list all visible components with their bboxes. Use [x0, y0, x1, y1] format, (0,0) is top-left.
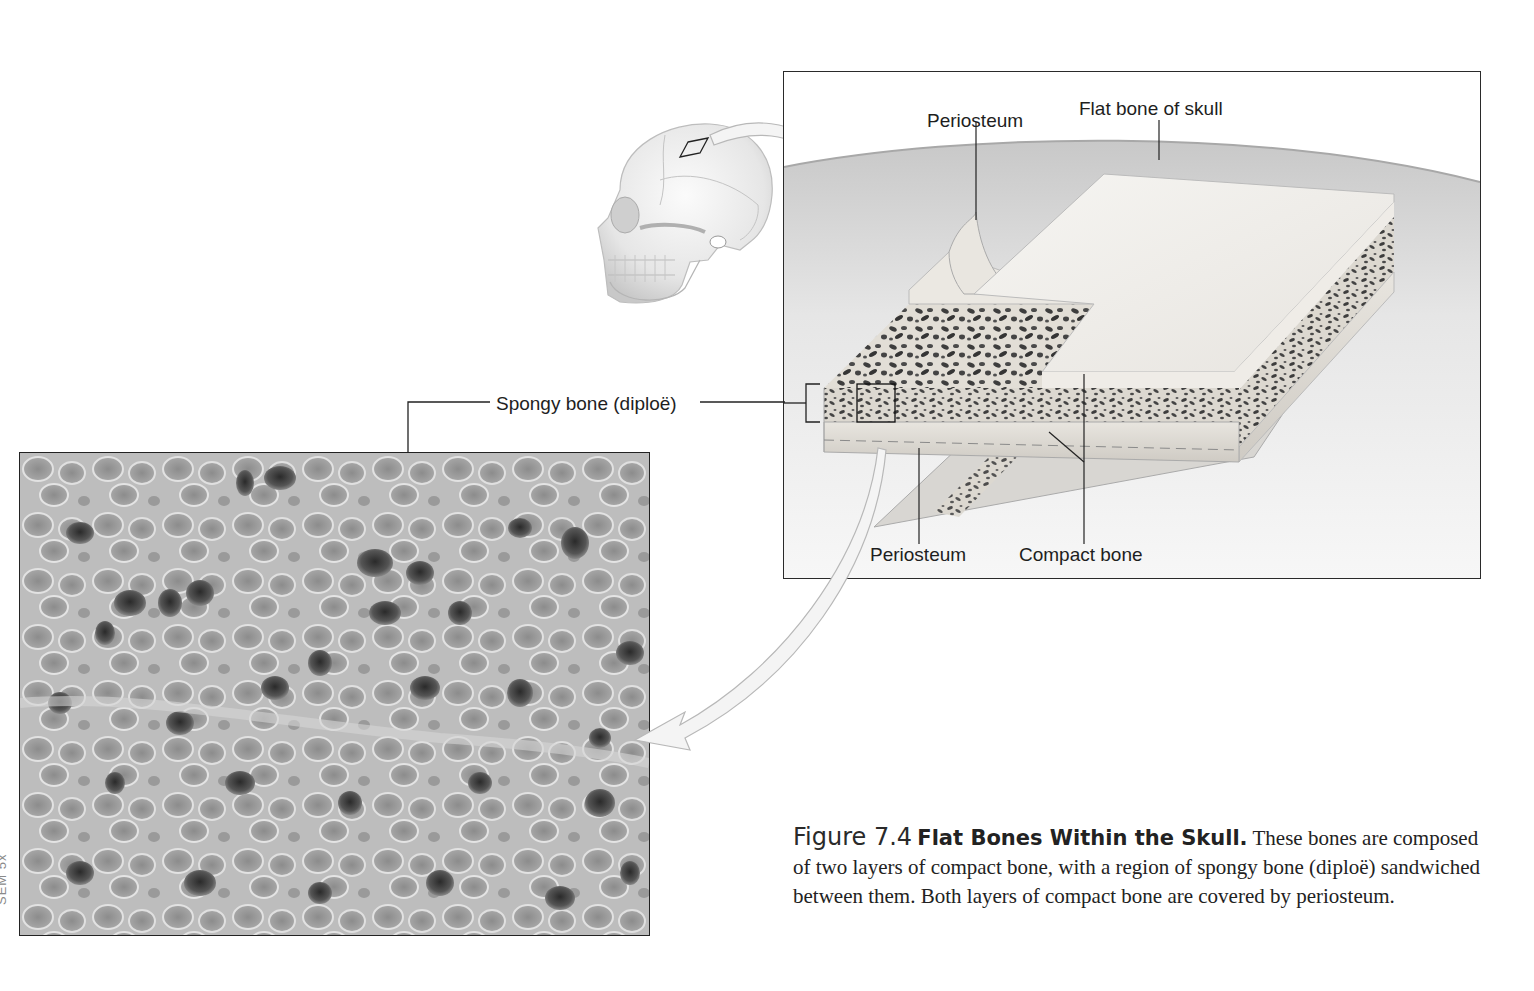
label-spongy-bone: Spongy bone (diploë) [496, 394, 677, 413]
arrow-detail-to-sem-icon [620, 440, 890, 760]
label-flat-bone-of-skull: Flat bone of skull [1079, 99, 1223, 118]
sem-magnification-tag: SEM 5x [0, 853, 9, 905]
figure-number: Figure 7.4 [793, 823, 912, 851]
spongy-bone-sem-image [20, 453, 649, 935]
label-periosteum-top: Periosteum [927, 111, 1023, 130]
figure-title: Flat Bones Within the Skull. [917, 826, 1247, 850]
figure-caption: Figure 7.4 Flat Bones Within the Skull. … [793, 823, 1483, 911]
sem-micrograph [19, 452, 650, 936]
label-compact-bone: Compact bone [1019, 545, 1143, 564]
